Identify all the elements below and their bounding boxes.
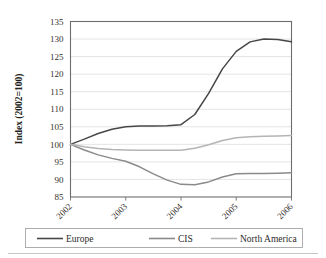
- y-axis-title: Index (2002=100): [14, 74, 25, 145]
- legend-label-north-america[interactable]: North America: [240, 234, 298, 244]
- chart-legend: EuropeCISNorth America: [26, 229, 303, 248]
- y-tick-label: 95: [55, 157, 65, 167]
- y-tick-label: 115: [50, 87, 64, 97]
- y-tick-label: 85: [55, 192, 65, 202]
- y-tick-label: 90: [55, 175, 65, 185]
- y-tick-label: 135: [50, 17, 64, 27]
- legend-label-cis[interactable]: CIS: [178, 234, 193, 244]
- legend-label-europe[interactable]: Europe: [66, 234, 93, 244]
- y-tick-label: 100: [50, 140, 64, 150]
- y-tick-label: 120: [50, 69, 64, 79]
- line-chart: 859095100105110115120125130135 200220032…: [0, 0, 326, 258]
- y-tick-label: 105: [50, 122, 64, 132]
- chart-figure: 859095100105110115120125130135 200220032…: [0, 0, 326, 258]
- y-tick-label: 110: [50, 104, 64, 114]
- y-tick-label: 130: [50, 34, 64, 44]
- y-tick-label: 125: [50, 52, 64, 62]
